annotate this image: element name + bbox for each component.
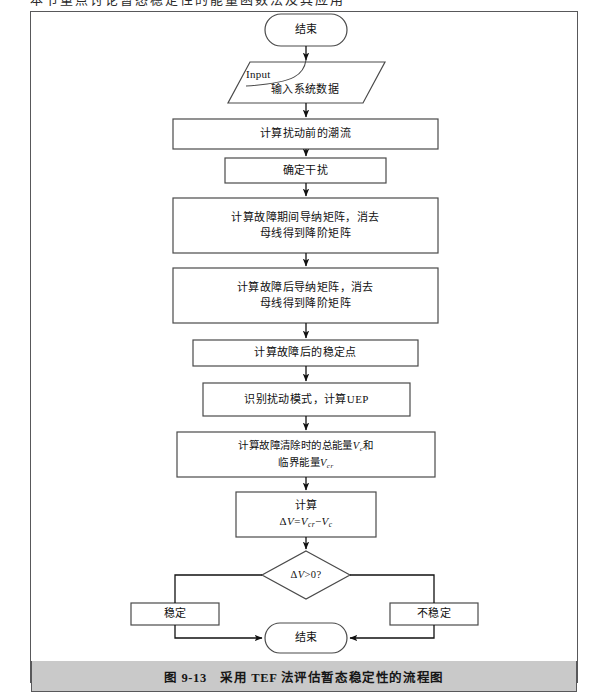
node-prefault-powerflow-label-wrap: 计算扰动前的潮流 — [173, 119, 438, 149]
vcr-var: V — [301, 515, 308, 527]
node-determine-disturbance-label-wrap: 确定干扰 — [225, 158, 386, 183]
input-annotation-label: Input — [246, 68, 271, 80]
node-identify-mode-uep-label-wrap: 识别扰动模式，计算UEP — [203, 383, 410, 416]
compute-energies-line1-pre: 计算故障清除时的总能量 — [238, 440, 352, 451]
decision-delta-symbol: Δ — [290, 569, 297, 580]
vcr-sub: cr — [308, 520, 315, 529]
compute-energies-line1-var: V — [353, 440, 360, 451]
node-compute-delta-v-label-wrap: 计算 ΔV=Vcr−Vc — [236, 492, 376, 537]
node-postfault-admittance-label-wrap: 计算故障后导纳矩阵，消去 母线得到降阶矩阵 — [173, 268, 438, 323]
node-fault-admittance-label-wrap: 计算故障期间导纳矩阵，消去 母线得到降阶矩阵 — [173, 198, 438, 253]
figure-caption: 图 9-13 采用 TEF 法评估暂态稳定性的流程图 — [164, 667, 444, 686]
node-postfault-sep-label: 计算故障后的稳定点 — [254, 345, 357, 361]
node-compute-delta-v-label: 计算 — [295, 498, 318, 514]
figure-caption-bar: 图 9-13 采用 TEF 法评估暂态稳定性的流程图 — [31, 661, 577, 692]
vc-var: V — [322, 515, 329, 527]
formula-equals: = — [294, 515, 301, 527]
node-input-data-label-wrap: 输入系统数据 — [250, 80, 360, 100]
compute-energies-line1-post: 和 — [363, 440, 373, 451]
vc-sub: c — [329, 520, 333, 529]
node-compute-delta-v-formula: ΔV=Vcr−Vc — [280, 514, 333, 531]
compute-energies-line2-var: V — [320, 457, 327, 468]
node-end-label-wrap: 结束 — [265, 623, 347, 653]
node-decision-label: ΔV>0? — [290, 567, 321, 582]
node-unstable-label-wrap: 不稳定 — [390, 603, 478, 625]
node-determine-disturbance-label: 确定干扰 — [283, 163, 329, 179]
node-compute-energies-line2: 临界能量Vcr — [278, 455, 333, 471]
node-unstable-label: 不稳定 — [417, 606, 451, 622]
node-compute-energies-label-wrap: 计算故障清除时的总能量Vc和 临界能量Vcr — [177, 432, 435, 477]
compute-energies-line2-pre: 临界能量 — [278, 457, 320, 468]
node-fault-admittance-line2: 母线得到降阶矩阵 — [260, 226, 351, 242]
formula-minus: − — [315, 515, 322, 527]
delta-symbol: Δ — [280, 515, 287, 527]
node-prefault-powerflow-label: 计算扰动前的潮流 — [260, 126, 351, 142]
node-postfault-sep-label-wrap: 计算故障后的稳定点 — [193, 340, 418, 366]
node-start-label-wrap: 结束 — [265, 14, 347, 46]
node-postfault-admittance-line1: 计算故障后导纳矩阵，消去 — [237, 280, 374, 296]
compute-energies-line2-sub: cr — [327, 461, 334, 469]
node-fault-admittance-line1: 计算故障期间导纳矩阵，消去 — [231, 210, 379, 226]
node-start-label: 结束 — [295, 22, 318, 38]
node-compute-energies-line1: 计算故障清除时的总能量Vc和 — [238, 438, 373, 454]
page-header-cutoff-text: 本节重点讨论暂态稳定性的能量函数法及其应用 — [0, 0, 606, 10]
node-input-data-label: 输入系统数据 — [271, 82, 339, 98]
header-cutoff-label: 本节重点讨论暂态稳定性的能量函数法及其应用 — [30, 0, 345, 8]
node-stable-label-wrap: 稳定 — [131, 603, 219, 625]
node-decision-label-wrap: ΔV>0? — [262, 551, 350, 599]
decision-condition: >0? — [304, 569, 321, 580]
node-end-label: 结束 — [295, 630, 318, 646]
node-postfault-admittance-line2: 母线得到降阶矩阵 — [260, 296, 351, 312]
node-stable-label: 稳定 — [164, 606, 187, 622]
figure-page: 本节重点讨论暂态稳定性的能量函数法及其应用 — [0, 0, 606, 694]
node-identify-mode-uep-label: 识别扰动模式，计算UEP — [244, 392, 369, 408]
